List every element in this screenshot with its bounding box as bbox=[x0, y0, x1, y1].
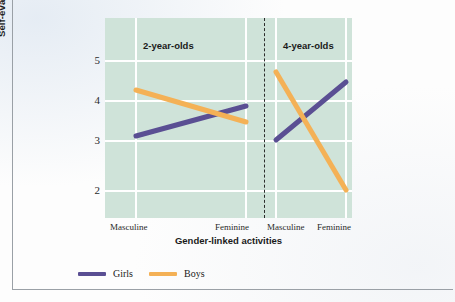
figure: 2-year-olds 4-year-olds Self-evaluative … bbox=[0, 0, 455, 302]
y-tick-label-3: 3 bbox=[78, 134, 100, 146]
y-tick-label-2: 2 bbox=[78, 184, 100, 196]
line-boys-2-year-olds bbox=[136, 90, 246, 122]
x-tick-label-right-feminine: Feminine bbox=[317, 222, 351, 232]
legend-label-girls: Girls bbox=[113, 268, 133, 279]
y-tick-label-4: 4 bbox=[78, 94, 100, 106]
x-axis-label: Gender-linked activities bbox=[105, 235, 352, 246]
legend-item-boys: Boys bbox=[149, 268, 205, 279]
plot-area: 2-year-olds 4-year-olds bbox=[105, 18, 352, 218]
y-axis-label: Self-evaluative reactions bbox=[0, 0, 7, 60]
x-tick-label-right-masculine: Masculine bbox=[267, 222, 305, 232]
legend: Girls Boys bbox=[78, 268, 205, 279]
legend-swatch-boys bbox=[149, 272, 177, 276]
legend-swatch-girls bbox=[78, 272, 106, 276]
panel-title-right: 4-year-olds bbox=[283, 40, 334, 51]
x-tick-label-left-masculine: Masculine bbox=[110, 222, 148, 232]
y-tick-label-5: 5 bbox=[78, 54, 100, 66]
x-tick-label-left-feminine: Feminine bbox=[215, 222, 249, 232]
legend-label-boys: Boys bbox=[184, 268, 205, 279]
legend-item-girls: Girls bbox=[78, 268, 133, 279]
panel-title-left: 2-year-olds bbox=[143, 40, 194, 51]
line-girls-2-year-olds bbox=[136, 106, 246, 136]
